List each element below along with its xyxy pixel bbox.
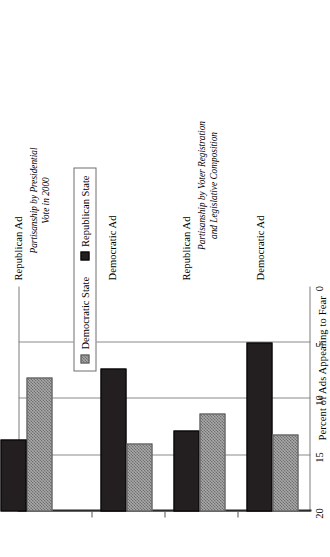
bar-g1-republican-ad-democratic-state: [199, 413, 225, 511]
bar-g1-democratic-ad-republican-state: [246, 342, 272, 511]
legend-label-republican-state: Republican State: [79, 175, 90, 246]
ytick-label-20: 20: [313, 502, 324, 524]
plot-area: [18, 286, 310, 511]
category-label-g1-republican-ad: Republican Ad: [180, 216, 191, 280]
ytick-label-15: 15: [313, 446, 324, 468]
group-tick-1: [91, 511, 92, 517]
page-root: 0 5 10 15 20 Percent of Ads Appealing to…: [0, 0, 330, 557]
chart-legend: Democratic State Republican State: [73, 167, 96, 371]
bar-g2-republican-ad-democratic-state: [26, 377, 52, 511]
category-label-g1-democratic-ad: Democratic Ad: [254, 215, 265, 280]
bar-g2-republican-ad-republican-state: [0, 439, 26, 511]
bar-g1-republican-ad-republican-state: [173, 430, 199, 511]
category-label-g2-republican-ad: Republican Ad: [12, 216, 23, 280]
legend-label-democratic-state: Democratic State: [79, 276, 90, 349]
bar-g1-democratic-ad-democratic-state: [272, 435, 298, 512]
bar-g2-democratic-ad-republican-state: [100, 368, 126, 511]
bar-g2-democratic-ad-democratic-state: [126, 444, 152, 512]
legend-item-democratic-state: Democratic State: [79, 276, 90, 363]
group-subtitle-voter-registration: Partisanship by Voter Registration and L…: [196, 90, 219, 280]
chart-canvas: 0 5 10 15 20 Percent of Ads Appealing to…: [0, 0, 330, 557]
legend-swatch-republican-state-icon: [80, 251, 89, 260]
group-tick-3: [237, 511, 238, 517]
group-subtitle-voter-registration-line2: and Legislative Composition: [208, 90, 220, 280]
legend-item-republican-state: Republican State: [79, 175, 90, 260]
group-subtitle-presidential-vote-line2: Vote in 2000: [40, 120, 52, 280]
legend-swatch-democratic-state-icon: [80, 354, 89, 363]
group-subtitle-voter-registration-line1: Partisanship by Voter Registration: [196, 90, 208, 280]
group-tick-2: [164, 511, 165, 517]
category-label-g2-democratic-ad: Democratic Ad: [106, 215, 117, 280]
group-subtitle-presidential-vote-line1: Partisanship by Presidential: [28, 120, 40, 280]
value-axis-title: Percent of Ads Appealing to Fear: [316, 296, 327, 440]
group-subtitle-presidential-vote: Partisanship by Presidential Vote in 200…: [28, 120, 51, 280]
